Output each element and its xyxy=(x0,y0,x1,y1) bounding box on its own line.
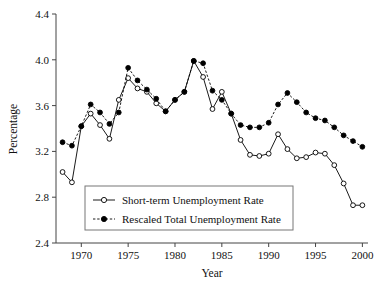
data-point-marker xyxy=(60,140,65,145)
y-tick-label: 3.2 xyxy=(35,145,49,157)
data-point-marker xyxy=(276,102,281,107)
data-point-marker xyxy=(126,65,131,70)
data-point-marker xyxy=(266,151,271,156)
data-point-marker xyxy=(248,125,253,130)
data-point-marker xyxy=(107,122,112,127)
data-point-marker xyxy=(294,100,299,105)
data-point-marker xyxy=(107,136,112,141)
series-line xyxy=(63,61,363,147)
data-point-marker xyxy=(173,97,178,102)
data-point-marker xyxy=(332,163,337,168)
chart-legend: Short-term Unemployment RateRescaled Tot… xyxy=(85,186,293,230)
data-point-marker xyxy=(276,132,281,137)
data-point-marker xyxy=(116,110,121,115)
legend-marker xyxy=(101,216,106,221)
chart-canvas: 2.42.83.23.64.04.4 197019751980198519901… xyxy=(0,0,375,293)
x-tick-label: 1990 xyxy=(258,249,281,261)
data-point-marker xyxy=(191,59,196,64)
data-point-marker xyxy=(135,86,140,91)
chart-series-layer xyxy=(60,59,365,208)
data-point-marker xyxy=(351,139,356,144)
data-point-marker xyxy=(210,88,215,93)
data-point-marker xyxy=(238,138,243,143)
data-point-marker xyxy=(98,123,103,128)
y-axis-ticks: 2.42.83.23.64.04.4 xyxy=(35,8,56,249)
data-point-marker xyxy=(238,123,243,128)
y-tick-label: 2.4 xyxy=(35,237,49,249)
data-point-marker xyxy=(313,116,318,121)
y-tick-label: 4.4 xyxy=(35,8,49,20)
data-point-marker xyxy=(341,181,346,186)
data-point-marker xyxy=(323,151,328,156)
data-point-marker xyxy=(294,156,299,161)
data-point-marker xyxy=(229,111,234,116)
data-point-marker xyxy=(70,180,75,185)
y-tick-label: 2.8 xyxy=(35,191,49,203)
data-point-marker xyxy=(285,147,290,152)
data-point-marker xyxy=(313,150,318,155)
x-tick-label: 2000 xyxy=(351,249,374,261)
data-point-marker xyxy=(332,125,337,130)
x-tick-label: 1980 xyxy=(164,249,187,261)
data-point-marker xyxy=(266,120,271,125)
legend-label: Short-term Unemployment Rate xyxy=(122,194,264,206)
y-tick-label: 4.0 xyxy=(35,54,49,66)
y-axis-title: Percentage xyxy=(7,104,20,154)
data-point-marker xyxy=(98,110,103,115)
data-point-marker xyxy=(219,89,224,94)
data-point-marker xyxy=(60,170,65,175)
data-point-marker xyxy=(304,155,309,160)
data-point-marker xyxy=(182,89,187,94)
data-point-marker xyxy=(210,107,215,112)
legend-marker xyxy=(101,197,106,202)
x-tick-label: 1985 xyxy=(211,249,234,261)
data-point-marker xyxy=(126,76,131,81)
data-point-marker xyxy=(201,61,206,66)
data-point-marker xyxy=(88,111,93,116)
data-point-marker xyxy=(163,109,168,114)
data-point-marker xyxy=(360,203,365,208)
data-point-marker xyxy=(341,133,346,138)
legend-label: Rescaled Total Unemployment Rate xyxy=(122,213,281,225)
x-tick-label: 1975 xyxy=(117,249,140,261)
data-point-marker xyxy=(79,124,84,129)
y-tick-label: 3.6 xyxy=(35,100,49,112)
data-point-marker xyxy=(154,96,159,101)
data-point-marker xyxy=(116,97,121,102)
x-tick-label: 1995 xyxy=(305,249,328,261)
data-point-marker xyxy=(351,203,356,208)
data-point-marker xyxy=(144,87,149,92)
data-point-marker xyxy=(70,143,75,148)
x-axis-ticks: 1970197519801985199019952000 xyxy=(70,243,374,261)
data-point-marker xyxy=(257,125,262,130)
x-axis-title: Year xyxy=(201,267,222,279)
data-point-marker xyxy=(248,152,253,157)
x-tick-label: 1970 xyxy=(70,249,93,261)
data-point-marker xyxy=(135,78,140,83)
data-point-marker xyxy=(154,101,159,106)
data-point-marker xyxy=(201,75,206,80)
unemployment-rate-chart: 2.42.83.23.64.04.4 197019751980198519901… xyxy=(0,0,375,293)
series-line xyxy=(63,61,363,205)
data-point-marker xyxy=(88,102,93,107)
data-point-marker xyxy=(360,144,365,149)
data-point-marker xyxy=(304,110,309,115)
data-point-marker xyxy=(323,118,328,123)
data-point-marker xyxy=(219,97,224,102)
data-point-marker xyxy=(257,154,262,159)
data-point-marker xyxy=(285,91,290,96)
